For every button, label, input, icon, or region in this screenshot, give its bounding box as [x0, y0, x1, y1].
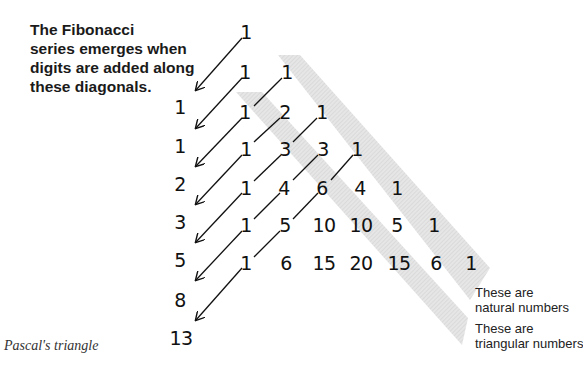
fib-6: 13	[169, 327, 192, 349]
cell-r3-c0: 1	[240, 138, 252, 160]
cell-r6-c5: 6	[430, 252, 442, 274]
cell-r4-c3: 4	[354, 177, 366, 199]
caption-line: these diagonals.	[30, 77, 220, 96]
cell-r4-c2: 6	[316, 177, 328, 199]
fib-2: 2	[174, 173, 186, 195]
figure-title: Pascal's triangle	[4, 338, 98, 354]
fib-5: 8	[174, 289, 186, 311]
cell-r6-c0: 1	[240, 252, 252, 274]
cell-r5-c2: 10	[312, 214, 335, 236]
cell-r4-c1: 4	[278, 177, 290, 199]
fibonacci-caption: The Fibonacci series emerges when digits…	[30, 20, 220, 96]
label-line: natural numbers	[475, 300, 569, 315]
cell-r2-c0: 1	[239, 101, 251, 123]
fib-4: 5	[174, 249, 186, 271]
fib-1: 1	[174, 135, 186, 157]
cell-r5-c0: 1	[240, 214, 252, 236]
cell-r4-c0: 1	[240, 177, 252, 199]
cell-r3-c3: 1	[351, 138, 363, 160]
cell-r1-c1: 1	[281, 61, 293, 83]
label-line: These are	[475, 285, 569, 300]
cell-r3-c1: 3	[279, 138, 291, 160]
cell-r5-c1: 5	[279, 214, 291, 236]
caption-line: digits are added along	[30, 58, 220, 77]
cell-r5-c4: 5	[391, 214, 403, 236]
label-line: These are	[475, 321, 583, 336]
cell-r2-c2: 1	[316, 101, 328, 123]
caption-line: series emerges when	[30, 39, 220, 58]
cell-r6-c1: 6	[280, 252, 292, 274]
cell-r6-c3: 20	[349, 252, 372, 274]
cell-r4-c4: 1	[391, 177, 403, 199]
cell-r5-c3: 10	[349, 214, 372, 236]
cell-r3-c2: 3	[317, 138, 329, 160]
natural-numbers-label: These are natural numbers	[475, 285, 569, 315]
cell-r1-c0: 1	[239, 61, 251, 83]
cell-r6-c6: 1	[465, 252, 477, 274]
fib-3: 3	[174, 211, 186, 233]
cell-r6-c4: 15	[387, 252, 410, 274]
cell-r6-c2: 15	[312, 252, 335, 274]
cell-r0-c0: 1	[240, 21, 252, 43]
cell-r2-c1: 2	[279, 101, 291, 123]
label-line: triangular numbers	[475, 336, 583, 351]
caption-line: The Fibonacci	[30, 20, 220, 39]
fib-0: 1	[174, 96, 186, 118]
natural-numbers-band	[278, 55, 490, 300]
triangular-numbers-label: These are triangular numbers	[475, 321, 583, 351]
cell-r5-c5: 1	[428, 214, 440, 236]
